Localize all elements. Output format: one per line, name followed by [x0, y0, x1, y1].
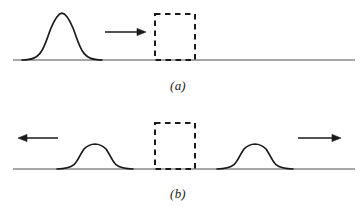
- panel-b-reflected-pulse: [57, 144, 133, 169]
- panel-b: [13, 123, 355, 169]
- panel-b-transmitted-pulse: [217, 144, 293, 169]
- panel-a: [13, 13, 355, 60]
- panel-b-dashed-box: [155, 123, 195, 169]
- panel-b-caption: (b): [148, 186, 208, 202]
- panel-b-left-arrow: [18, 134, 58, 141]
- panel-a-incident-pulse: [22, 13, 102, 60]
- wave-pulse-diagram: [0, 0, 361, 213]
- figure-container: (a) (b): [0, 0, 361, 213]
- panel-b-right-arrow: [298, 134, 341, 141]
- panel-a-right-arrow: [105, 28, 146, 35]
- panel-a-dashed-box: [155, 14, 195, 60]
- panel-a-caption: (a): [148, 78, 208, 94]
